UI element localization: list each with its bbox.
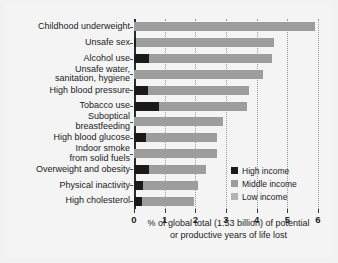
bar-segment [146,133,217,142]
category-label: Physical inactivity [8,181,130,191]
category-tick [130,43,133,44]
bar-segment [134,165,149,174]
category-tick [130,90,133,91]
x-axis-tick [165,209,166,213]
bar-row [134,117,318,126]
legend-swatch-high-icon [231,167,238,174]
category-label: Indoor smoke from solid fuels [8,144,130,163]
bar-segment [134,117,223,126]
bar-segment [143,181,198,190]
x-axis-label-line: % of global total (1.53 billion) of pote… [126,218,331,230]
x-axis-tick [134,209,135,213]
bar-segment [136,38,274,47]
chart-canvas: Childhood underweightUnsafe sexAlcohol u… [6,5,332,257]
legend-item-middle[interactable]: Middle income [231,178,315,189]
x-axis-label-line: or productive years of life lost [126,230,331,242]
bar-segment [134,133,146,142]
legend-swatch-middle-icon [231,180,238,187]
category-axis: Childhood underweightUnsafe sexAlcohol u… [6,19,130,209]
category-label: Tobacco use [8,101,130,111]
chart-legend: High incomeMiddle incomeLow income [231,165,315,204]
x-axis-tick [257,209,258,213]
bar-row [134,38,318,47]
bar-segment [134,70,263,79]
bar-row [134,102,318,111]
category-tick [130,27,133,28]
bar-segment [159,102,248,111]
bar-row [134,22,318,31]
x-axis-label: % of global total (1.53 billion) of pote… [126,218,331,241]
category-label: High blood glucose [8,133,130,143]
bar-segment [134,102,159,111]
category-label: Unsafe water, sanitation, hygiene [8,65,130,84]
category-tick [130,169,133,170]
category-label: Unsafe sex [8,38,130,48]
legend-label: Low income [242,192,287,202]
x-axis-tick [318,209,319,213]
bar-row [134,86,318,95]
category-tick [130,138,133,139]
legend-item-high[interactable]: High income [231,165,315,176]
category-label: Suboptical breastfeeding [8,112,130,131]
category-label: Childhood underweight [8,22,130,32]
bar-segment [149,165,206,174]
legend-label: High income [242,166,289,176]
category-label: Overweight and obesity [8,165,130,175]
bar-segment [149,54,272,63]
category-tick [130,154,133,155]
category-tick [130,106,133,107]
category-tick [130,201,133,202]
legend-item-low[interactable]: Low income [231,191,315,202]
bar-segment [142,197,194,206]
legend-label: Middle income [242,179,297,189]
bar-segment [134,149,217,158]
bar-segment [134,197,142,206]
x-axis-tick [287,209,288,213]
category-label: High blood pressure [8,86,130,96]
bar-segment [134,181,143,190]
category-label: High cholesterol [8,196,130,206]
bar-segment [148,86,249,95]
category-tick [130,122,133,123]
bar-segment [134,22,315,31]
x-axis-tick [195,209,196,213]
bar-segment [134,86,148,95]
legend-swatch-low-icon [231,193,238,200]
bar-row [134,149,318,158]
category-tick [130,74,133,75]
x-axis-tick [226,209,227,213]
bar-row [134,54,318,63]
bar-row [134,70,318,79]
category-tick [130,185,133,186]
category-label: Alcohol use [8,54,130,64]
bar-row [134,133,318,142]
gridline [318,19,320,209]
bar-segment [134,54,149,63]
chart-figure: Childhood underweightUnsafe sexAlcohol u… [0,0,338,263]
category-tick [130,59,133,60]
